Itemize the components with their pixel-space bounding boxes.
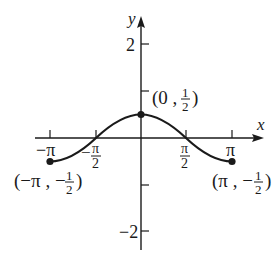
label-open: (π , −: [212, 170, 253, 192]
frac-den: 2: [181, 156, 188, 171]
frac-num: π: [92, 141, 99, 156]
label-open: (0 ,: [152, 87, 177, 109]
frac-num: 1: [182, 85, 189, 100]
chart-svg: y x 2 −2 −π − π 2 π 2 π (0 , 1 2 ) (−π ,…: [0, 0, 279, 254]
y-tick-label-neg2: −2: [119, 222, 138, 242]
point-label-pi: (π , − 1 2 ): [212, 168, 271, 197]
frac-num: 1: [255, 168, 262, 183]
chart-figure: y x 2 −2 −π − π 2 π 2 π (0 , 1 2 ) (−π ,…: [0, 0, 279, 254]
point-zero: [137, 111, 144, 118]
x-tick-label-neg-half-pi: − π 2: [81, 141, 101, 171]
y-tick-label-2: 2: [126, 35, 135, 55]
frac-num: π: [181, 141, 188, 156]
frac-den: 2: [182, 99, 189, 114]
frac-den: 2: [66, 182, 73, 197]
minus-sign: −: [81, 143, 91, 162]
point-label-zero: (0 , 1 2 ): [152, 85, 198, 114]
x-tick-label-neg-pi: −π: [36, 140, 55, 160]
frac-num: 1: [66, 168, 73, 183]
y-axis-label: y: [126, 9, 136, 28]
frac-den: 2: [255, 182, 262, 197]
x-tick-label-pi: π: [226, 140, 235, 160]
x-axis-label: x: [256, 115, 265, 134]
x-tick-label-half-pi: π 2: [180, 141, 190, 171]
frac-den: 2: [92, 156, 99, 171]
label-open: (−π , −: [14, 170, 66, 192]
label-close: ): [265, 170, 271, 192]
label-close: ): [76, 170, 82, 192]
point-label-neg-pi: (−π , − 1 2 ): [14, 168, 82, 197]
label-close: ): [192, 87, 198, 109]
